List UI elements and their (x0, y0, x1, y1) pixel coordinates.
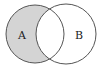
set-label-b: B (75, 29, 83, 42)
venn-diagram: A B (0, 0, 99, 69)
set-label-a: A (17, 29, 27, 42)
